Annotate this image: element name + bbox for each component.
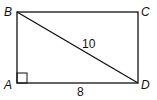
diagonal-bd [17,12,138,83]
diagonal-length-label: 10 [82,37,96,51]
vertex-label-c: C [141,5,150,19]
rectangle-diagram: B C A D 10 8 [0,0,157,100]
vertex-label-a: A [3,78,12,92]
bottom-length-label: 8 [77,85,84,99]
vertex-label-d: D [141,78,150,92]
right-angle-marker [17,73,27,83]
vertex-label-b: B [4,5,12,19]
